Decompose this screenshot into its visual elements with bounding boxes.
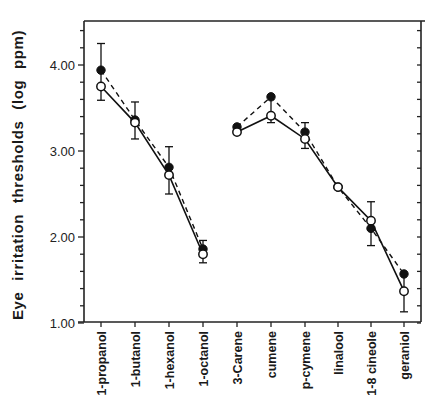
x-category-label: p-cymene	[299, 331, 313, 389]
x-axis-ticks: 1-propanol1-butanol1-hexanol1-octanol3-C…	[95, 322, 412, 396]
x-category-label: cumene	[265, 331, 279, 378]
series-lines	[101, 70, 404, 291]
series-line	[101, 70, 203, 249]
filled-point	[97, 66, 105, 74]
y-tick-label: 3.00	[50, 144, 75, 159]
x-category-label: 3-Carene	[231, 331, 245, 385]
open-point	[334, 183, 342, 191]
x-category-label: 1-octanol	[197, 331, 211, 387]
filled-point	[400, 270, 408, 278]
series-line	[237, 97, 404, 274]
open-point	[367, 216, 375, 224]
open-point	[267, 112, 275, 120]
y-tick-label: 2.00	[50, 230, 75, 245]
x-category-label: 1-butanol	[129, 331, 143, 387]
x-category-label: 1-hexanol	[163, 331, 177, 389]
x-category-label: 1-propanol	[95, 331, 109, 396]
y-tick-label: 1.00	[50, 316, 75, 331]
y-axis-ticks: 1.002.003.004.00	[50, 31, 84, 331]
y-tick-label: 4.00	[50, 58, 75, 73]
open-point	[233, 128, 241, 136]
error-bars	[97, 44, 408, 312]
filled-point	[267, 93, 275, 101]
open-point	[165, 171, 173, 179]
open-point	[301, 135, 309, 143]
x-category-label: geraniol	[398, 331, 412, 380]
open-point	[400, 287, 408, 295]
data-points	[97, 66, 408, 295]
plot-frame	[78, 21, 425, 322]
series-line	[237, 116, 404, 291]
open-point	[199, 250, 207, 258]
x-category-label: linalool	[332, 331, 346, 375]
series-line	[101, 87, 203, 255]
chart: Eye irritation thresholds (log ppm) 1.00…	[0, 0, 436, 411]
x-category-label: 1-8 cineole	[365, 331, 379, 396]
open-point	[97, 82, 105, 90]
open-point	[131, 118, 139, 126]
y-axis-label: Eye irritation thresholds (log ppm)	[9, 30, 26, 320]
